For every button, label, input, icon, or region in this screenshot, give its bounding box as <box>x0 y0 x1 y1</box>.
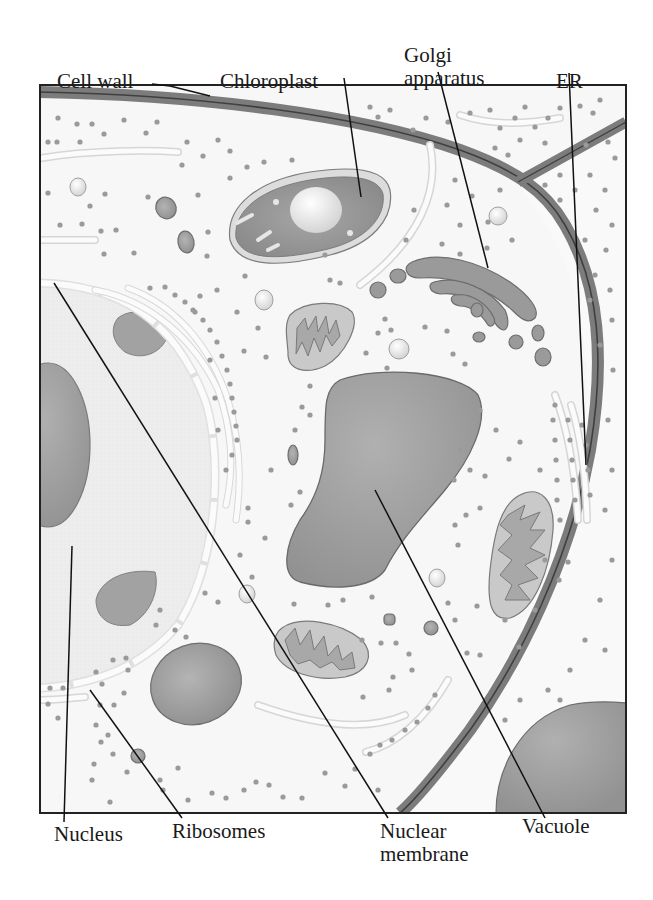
label-nuclear-membrane: Nuclear membrane <box>380 820 469 866</box>
label-vacuole: Vacuole <box>522 815 590 838</box>
label-chloroplast: Chloroplast <box>220 70 318 93</box>
label-golgi-apparatus: Golgi apparatus <box>404 44 484 90</box>
label-cell-wall: Cell wall <box>57 70 133 93</box>
plant-cell-diagram <box>0 0 653 900</box>
label-er: ER <box>556 70 583 93</box>
label-nucleus: Nucleus <box>54 823 123 846</box>
label-ribosomes: Ribosomes <box>172 820 265 843</box>
